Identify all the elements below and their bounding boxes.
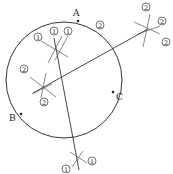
- svg-text:2: 2: [144, 4, 148, 12]
- step-label: 1: [34, 33, 42, 42]
- bisector-line-1: [54, 38, 79, 170]
- step-label: 1: [50, 27, 58, 36]
- arc-cross-4: [70, 151, 87, 167]
- arc-cross-3: [134, 14, 160, 47]
- svg-text:1: 1: [66, 28, 70, 36]
- step-label: 2: [40, 98, 48, 107]
- step-label: 1: [64, 27, 72, 36]
- step-label: 2: [142, 3, 150, 12]
- svg-text:2: 2: [160, 18, 164, 26]
- bisector-line-2: [33, 29, 148, 93]
- label-b: B: [9, 113, 16, 123]
- label-a: A: [72, 8, 80, 18]
- point-a: [77, 20, 80, 23]
- step-label: 2: [96, 21, 104, 30]
- point-c: [112, 91, 115, 94]
- svg-text:1: 1: [52, 28, 56, 36]
- svg-text:2: 2: [164, 39, 168, 47]
- svg-text:1: 1: [64, 166, 68, 174]
- arc-cross-2: [30, 73, 56, 98]
- svg-text:2: 2: [98, 22, 102, 30]
- point-b: [20, 113, 23, 116]
- step-label: 2: [158, 17, 166, 26]
- circle: [6, 22, 122, 138]
- svg-text:2: 2: [22, 66, 26, 74]
- svg-text:1: 1: [36, 34, 40, 42]
- geometry-diagram: A B C 1 1 1 2 2 2 2 2 2 1 1: [0, 0, 173, 173]
- svg-text:1: 1: [90, 158, 94, 166]
- step-label: 1: [62, 165, 70, 173]
- label-c: C: [116, 92, 123, 102]
- step-label: 2: [162, 38, 170, 47]
- step-label: 2: [20, 65, 28, 74]
- svg-text:2: 2: [42, 99, 46, 107]
- step-label: 1: [88, 157, 96, 166]
